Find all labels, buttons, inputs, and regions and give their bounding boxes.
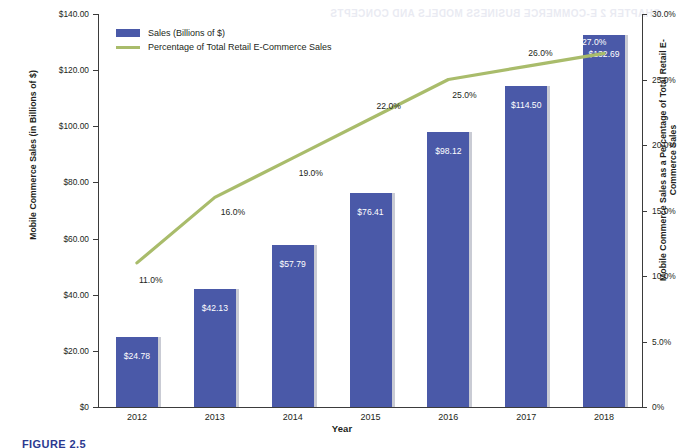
x-axis-label-2017: 2017 (496, 412, 556, 422)
percentage-label-2012: 11.0% (139, 275, 163, 285)
y-axis-right-tick-label: 5.0% (652, 337, 671, 347)
y-axis-left-tick-label: $80.00 (63, 177, 89, 187)
x-axis-title: Year (0, 423, 684, 434)
figure-caption: FIGURE 2.5 (22, 438, 86, 448)
y-axis-right-tick-label: 30.0% (652, 9, 676, 19)
y-axis-right-tick-label: 20.0% (652, 140, 676, 150)
x-axis-label-2014: 2014 (263, 412, 323, 422)
percentage-label-2018: 27.0% (582, 37, 606, 47)
y-axis-right-tick-label: 25.0% (652, 75, 676, 85)
legend-item-1[interactable]: Sales (Billions of $) (116, 26, 331, 40)
chart-legend: Sales (Billions of $)Percentage of Total… (116, 26, 331, 54)
x-axis-label-2012: 2012 (107, 412, 167, 422)
y-axis-right-title: Mobile Commerce Sales as a Percentage of… (658, 35, 678, 285)
y-axis-left-tick-label: $140.00 (59, 9, 89, 19)
y-axis-left-tick-label: $60.00 (63, 234, 89, 244)
percentage-label-2013: 16.0% (221, 207, 245, 217)
percentage-label-2017: 26.0% (528, 48, 552, 58)
x-axis-label-2013: 2013 (185, 412, 245, 422)
chart-figure: CHAPTER 2 E-COMMERCE BUSINESS MODELS AND… (0, 0, 684, 448)
x-axis-label-2018: 2018 (574, 412, 634, 422)
y-axis-left-tick-label: $120.00 (59, 65, 89, 75)
x-axis-label-2015: 2015 (341, 412, 401, 422)
y-axis-left-tick-label: $0 (80, 402, 89, 412)
y-axis-right-tick-label: 15.0% (652, 206, 676, 216)
legend-bar-swatch-icon (116, 29, 140, 37)
plot-area: $0$20.00$40.00$60.00$80.00$100.00$120.00… (98, 14, 643, 408)
legend-item-2[interactable]: Percentage of Total Retail E-Commerce Sa… (116, 40, 331, 54)
y-axis-right-tick-label: 10.0% (652, 271, 676, 281)
y-axis-left-tick-label: $100.00 (59, 121, 89, 131)
y-axis-left-tick-label: $20.00 (63, 346, 89, 356)
percentage-label-2016: 25.0% (452, 90, 476, 100)
percentage-label-2015: 22.0% (377, 101, 401, 111)
legend-line-swatch-icon (116, 46, 140, 49)
legend-item-label: Percentage of Total Retail E-Commerce Sa… (148, 42, 331, 52)
percentage-line (137, 53, 604, 263)
y-axis-left-title: Mobile Commerce Sales (in Billions of $) (28, 60, 38, 250)
y-axis-left-tick-label: $40.00 (63, 290, 89, 300)
percentage-label-2014: 19.0% (299, 168, 323, 178)
y-axis-right-tick-label: 0% (652, 402, 664, 412)
line-series-layer (98, 14, 643, 408)
legend-item-label: Sales (Billions of $) (148, 28, 225, 38)
x-axis-label-2016: 2016 (418, 412, 478, 422)
